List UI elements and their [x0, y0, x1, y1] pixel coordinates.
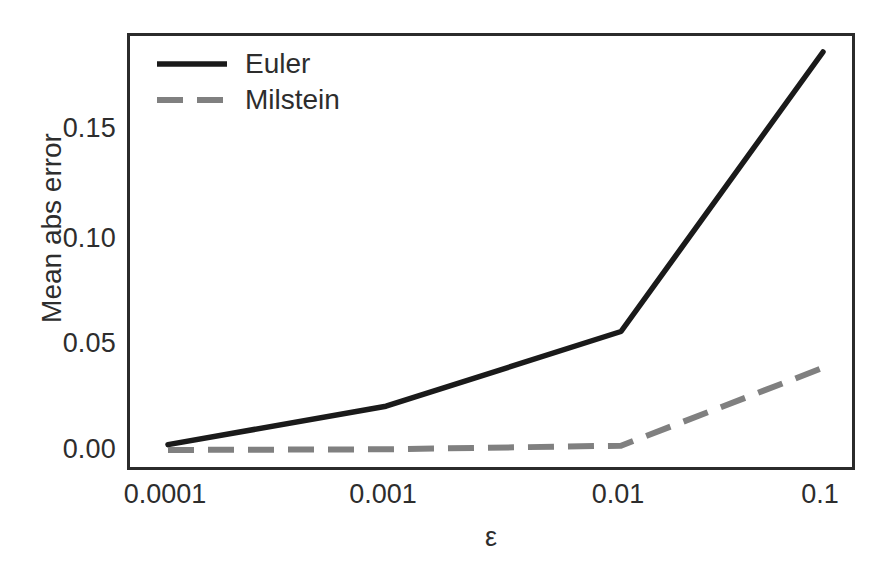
x-tick-label: 0.001	[349, 481, 417, 508]
chart-figure: 0.15 0.10 0.05 0.00 0.0001 0.001 0.01 0.…	[0, 0, 882, 562]
x-tick-label: 0.01	[592, 481, 645, 508]
series-line-milstein	[168, 368, 823, 450]
legend-line-solid-icon	[155, 55, 229, 73]
x-tick-label: 0.1	[801, 481, 839, 508]
legend-label: Milstein	[245, 86, 340, 114]
x-tick-label: 0.0001	[124, 481, 207, 508]
y-tick-label: 0.00	[16, 436, 116, 463]
legend-entry-milstein: Milstein	[155, 82, 415, 118]
legend-line-dashed-icon	[155, 91, 229, 109]
chart-legend: Euler Milstein	[155, 46, 415, 118]
x-axis-title: ε	[127, 524, 855, 551]
legend-label: Euler	[245, 50, 310, 78]
y-tick-label: 0.05	[16, 330, 116, 357]
y-axis-title: Mean abs error	[38, 98, 66, 358]
legend-entry-euler: Euler	[155, 46, 415, 82]
x-axis-tick-labels: 0.0001 0.001 0.01 0.1	[0, 481, 882, 517]
